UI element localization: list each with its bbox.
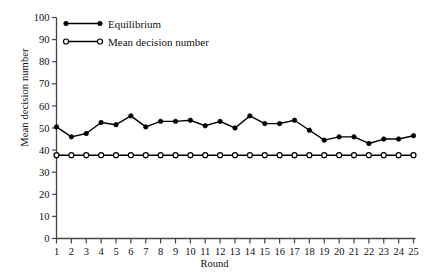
data-point-equilibrium <box>54 125 58 129</box>
data-point-mean-decision <box>322 153 327 158</box>
data-point-equilibrium <box>188 118 192 122</box>
x-tick-label: 3 <box>84 246 89 257</box>
y-tick-label: 100 <box>34 12 50 23</box>
y-tick-label: 30 <box>39 167 50 178</box>
data-point-mean-decision <box>218 153 223 158</box>
data-point-mean-decision <box>203 153 208 158</box>
legend-label-1[interactable]: Equilibrium <box>108 18 162 30</box>
data-point-mean-decision <box>233 153 238 158</box>
x-tick-label: 11 <box>200 246 210 257</box>
y-axis-title: Mean decision number <box>19 28 30 168</box>
data-point-mean-decision <box>128 153 133 158</box>
x-tick-label: 12 <box>215 246 226 257</box>
data-point-equilibrium <box>263 121 267 125</box>
y-tick-label: 10 <box>39 211 50 222</box>
data-point-equilibrium <box>277 121 281 125</box>
x-tick-label: 24 <box>393 246 404 257</box>
data-point-equilibrium <box>233 126 237 130</box>
x-tick-label: 10 <box>185 246 196 257</box>
y-tick-label: 70 <box>39 78 50 89</box>
x-tick-label: 16 <box>274 246 285 257</box>
x-tick-label: 22 <box>364 246 375 257</box>
chart-figure: 0102030405060708090100 12345678910111213… <box>0 0 429 279</box>
data-point-equilibrium <box>411 134 415 138</box>
data-point-mean-decision <box>99 153 104 158</box>
x-tick-label: 14 <box>245 246 256 257</box>
data-point-equilibrium <box>144 125 148 129</box>
data-point-equilibrium <box>337 135 341 139</box>
data-point-mean-decision <box>381 153 386 158</box>
x-tick-label: 17 <box>289 246 300 257</box>
x-tick-label: 2 <box>69 246 74 257</box>
legend-label-2[interactable]: Mean decision number <box>108 36 209 48</box>
data-point-mean-decision <box>307 153 312 158</box>
x-tick-label: 8 <box>158 246 163 257</box>
data-point-equilibrium <box>218 119 222 123</box>
data-point-mean-decision <box>69 153 74 158</box>
y-tick-label: 40 <box>39 145 50 156</box>
data-point-equilibrium <box>367 141 371 145</box>
data-point-equilibrium <box>203 124 207 128</box>
data-point-mean-decision <box>277 153 282 158</box>
data-point-mean-decision <box>158 153 163 158</box>
x-tick-label: 19 <box>319 246 330 257</box>
data-point-mean-decision <box>247 153 252 158</box>
x-tick-label: 18 <box>304 246 315 257</box>
x-tick-label: 23 <box>379 246 390 257</box>
y-tick-label: 90 <box>39 34 50 45</box>
x-tick-label: 25 <box>408 246 419 257</box>
data-point-mean-decision <box>114 153 119 158</box>
x-axis-title: Round <box>0 258 429 269</box>
data-point-equilibrium <box>248 114 252 118</box>
data-point-mean-decision <box>84 153 89 158</box>
data-point-mean-decision <box>352 153 357 158</box>
legend-marker-filled-circle-icon <box>64 21 68 25</box>
x-tick-label: 13 <box>230 246 241 257</box>
data-point-equilibrium <box>158 119 162 123</box>
x-tick-label: 4 <box>99 246 105 257</box>
x-tick-label: 5 <box>113 246 118 257</box>
data-point-mean-decision <box>143 153 148 158</box>
data-point-equilibrium <box>352 135 356 139</box>
data-point-equilibrium <box>322 138 326 142</box>
x-tick-label: 7 <box>143 246 148 257</box>
x-tick-label: 15 <box>260 246 271 257</box>
x-tick-label: 1 <box>54 246 59 257</box>
legend-marker-open-circle-icon <box>98 39 103 44</box>
data-point-mean-decision <box>54 153 59 158</box>
x-tick-label: 6 <box>128 246 133 257</box>
data-point-equilibrium <box>292 118 296 122</box>
y-tick-label: 80 <box>39 56 50 67</box>
data-point-equilibrium <box>396 137 400 141</box>
data-point-equilibrium <box>99 120 103 124</box>
line-chart-canvas: 0102030405060708090100 12345678910111213… <box>0 0 429 279</box>
data-point-mean-decision <box>366 153 371 158</box>
y-tick-label: 60 <box>39 101 50 112</box>
data-point-equilibrium <box>173 119 177 123</box>
data-point-mean-decision <box>396 153 401 158</box>
data-point-equilibrium <box>114 122 118 126</box>
data-point-mean-decision <box>411 153 416 158</box>
data-point-equilibrium <box>129 114 133 118</box>
data-point-mean-decision <box>292 153 297 158</box>
data-point-mean-decision <box>262 153 267 158</box>
x-tick-label: 21 <box>349 246 360 257</box>
legend-marker-open-circle-icon <box>64 39 69 44</box>
x-tick-label: 9 <box>173 246 178 257</box>
data-point-mean-decision <box>173 153 178 158</box>
y-tick-label: 50 <box>39 123 50 134</box>
y-tick-label: 20 <box>39 189 50 200</box>
y-tick-label: 0 <box>44 233 49 244</box>
data-point-equilibrium <box>382 137 386 141</box>
data-point-equilibrium <box>307 128 311 132</box>
data-point-mean-decision <box>337 153 342 158</box>
data-point-mean-decision <box>188 153 193 158</box>
data-point-equilibrium <box>84 131 88 135</box>
data-point-equilibrium <box>69 135 73 139</box>
x-tick-label: 20 <box>334 246 345 257</box>
legend-marker-filled-circle-icon <box>98 21 102 25</box>
